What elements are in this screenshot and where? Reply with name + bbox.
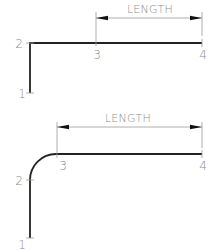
- top-point-label-2: 2: [15, 37, 23, 51]
- top-point-label-1: 1: [18, 87, 26, 101]
- top-arrowhead-right-icon: [190, 16, 202, 20]
- top-sharp-corner-figure: LENGTH 2 1 3 4: [15, 3, 207, 101]
- top-geometry-path: [30, 43, 202, 93]
- bottom-point-label-4: 4: [199, 159, 207, 173]
- top-dimension-label: LENGTH: [127, 3, 173, 16]
- bottom-filleted-corner-figure: LENGTH 2 1 3 4: [15, 112, 207, 251]
- bottom-point-label-3: 3: [59, 159, 67, 173]
- bottom-arrowhead-left-icon: [57, 125, 69, 129]
- top-point-label-4: 4: [199, 48, 207, 62]
- bottom-point-label-2: 2: [15, 174, 23, 188]
- bottom-dimension-label: LENGTH: [105, 112, 151, 125]
- bottom-geometry-path: [30, 154, 202, 238]
- bottom-arrowhead-right-icon: [190, 125, 202, 129]
- top-point-label-3: 3: [93, 48, 101, 62]
- length-dimension-diagram: LENGTH 2 1 3 4 LENGTH 2 1 3 4: [0, 0, 219, 251]
- top-arrowhead-left-icon: [96, 16, 108, 20]
- bottom-point-label-1: 1: [18, 238, 26, 251]
